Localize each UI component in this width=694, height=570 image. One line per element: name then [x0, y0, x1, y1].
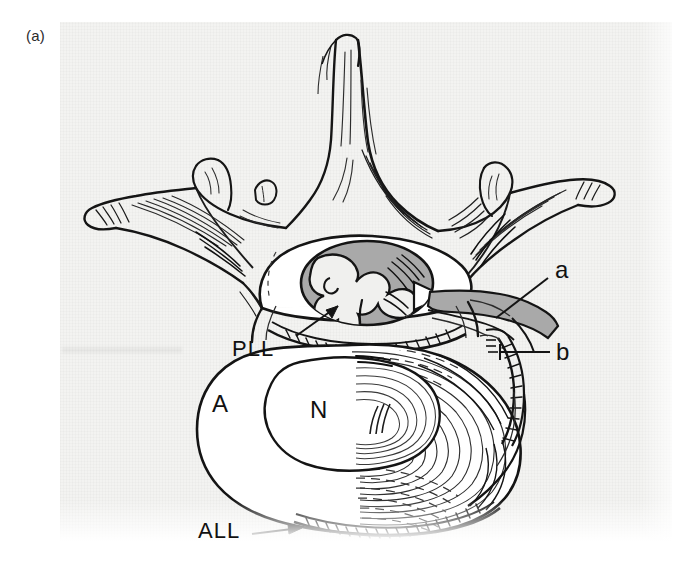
transverse-process-right — [463, 179, 615, 302]
label-annulus: A — [212, 392, 228, 416]
scan-edge-fade-right — [640, 22, 694, 546]
label-nucleus: N — [310, 398, 327, 422]
scan-edge-fade-bottom — [60, 500, 672, 546]
lamina-left — [193, 159, 286, 228]
label-a: a — [555, 258, 568, 282]
label-all: ALL — [198, 520, 240, 542]
label-pll: PLL — [232, 338, 274, 360]
nucleus-pulposus-outline — [265, 357, 440, 470]
vertebra-cross-section-illustration — [0, 0, 694, 570]
figure-root: (a) PLL ALL A N a b — [0, 0, 694, 570]
label-b: b — [556, 340, 569, 364]
lamina-right — [438, 162, 512, 238]
spinous-process — [286, 35, 438, 238]
panel-label: (a) — [26, 28, 45, 43]
transverse-process-left — [85, 188, 262, 308]
